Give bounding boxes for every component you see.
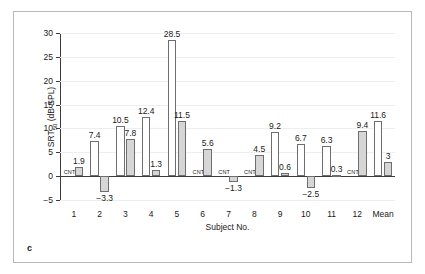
gridline — [60, 128, 395, 129]
figure-panel: SRT50 (dB SPL) −5051015202530 CNT1.97.4−… — [13, 11, 412, 263]
y-axis-tick — [56, 81, 60, 82]
x-axis-title: Subject No. — [60, 222, 395, 232]
bar-value-label: −2.5 — [296, 189, 326, 199]
y-axis-title: SRT50 (dB SPL) — [46, 86, 58, 146]
bar-value-label: 5.6 — [193, 138, 223, 148]
bar-open-Mean — [374, 121, 383, 176]
bar-value-label: 1.9 — [64, 156, 94, 166]
plot-area: SRT50 (dB SPL) −5051015202530 CNT1.97.4−… — [60, 33, 395, 200]
y-axis-tick-label: 25 — [44, 52, 53, 62]
bar-value-label: 10.5 — [105, 115, 135, 125]
gridline — [60, 33, 395, 34]
y-axis-tick — [56, 128, 60, 129]
y-axis-tick — [56, 105, 60, 106]
bar-filled-4 — [152, 170, 161, 176]
bar-filled-11 — [332, 175, 341, 178]
bar-open-10 — [297, 144, 306, 176]
bar-filled-8 — [255, 155, 264, 176]
bar-value-label: 28.5 — [157, 29, 187, 39]
bar-value-label: 6.3 — [312, 135, 342, 145]
bar-value-label: 7.4 — [80, 130, 110, 140]
bar-filled-Mean — [384, 162, 393, 176]
y-axis-tick-label: 15 — [44, 100, 53, 110]
bar-value-label: −1.3 — [219, 183, 249, 193]
y-axis-tick-label: 20 — [44, 76, 53, 86]
bar-value-label: 0.6 — [270, 162, 300, 172]
bar-filled-1 — [75, 167, 84, 176]
bar-open-5 — [168, 40, 177, 176]
gridline — [60, 81, 395, 82]
x-axis-line — [60, 176, 395, 177]
cnt-marker: CNT — [218, 169, 230, 175]
bar-filled-2 — [100, 176, 109, 192]
y-axis-tick-label: 10 — [44, 123, 53, 133]
bar-filled-7 — [229, 176, 238, 182]
y-axis-tick-label: 5 — [48, 147, 53, 157]
bar-value-label: 4.5 — [244, 144, 274, 154]
y-axis-tick — [56, 176, 60, 177]
gridline — [60, 105, 395, 106]
bar-filled-10 — [307, 176, 316, 188]
bar-value-label: 9.2 — [260, 121, 290, 131]
bar-filled-5 — [178, 121, 187, 176]
bar-value-label: 3 — [373, 151, 403, 161]
bar-filled-6 — [203, 149, 212, 176]
y-axis-tick — [56, 200, 60, 201]
bar-filled-12 — [358, 131, 367, 176]
y-axis-tick — [56, 152, 60, 153]
gridline — [60, 57, 395, 58]
bar-filled-9 — [281, 173, 290, 176]
bar-value-label: 9.4 — [347, 120, 377, 130]
y-axis-line — [60, 33, 61, 200]
bar-value-label: 7.8 — [115, 128, 145, 138]
y-axis-tick — [56, 57, 60, 58]
gridline — [60, 152, 395, 153]
bar-value-label: 1.3 — [141, 159, 171, 169]
bar-value-label: 12.4 — [131, 106, 161, 116]
y-axis-tick — [56, 33, 60, 34]
bar-value-label: 11.6 — [363, 110, 393, 120]
x-axis-label-Mean: Mean — [363, 209, 403, 219]
bar-open-2 — [90, 141, 99, 176]
y-axis-tick-label: 0 — [48, 171, 53, 181]
y-axis-tick-label: 30 — [44, 28, 53, 38]
bar-value-label: −3.3 — [90, 193, 120, 203]
bar-filled-3 — [126, 139, 135, 176]
panel-label: c — [27, 243, 32, 253]
bar-value-label: 11.5 — [167, 110, 197, 120]
y-axis-tick-label: −5 — [43, 195, 53, 205]
